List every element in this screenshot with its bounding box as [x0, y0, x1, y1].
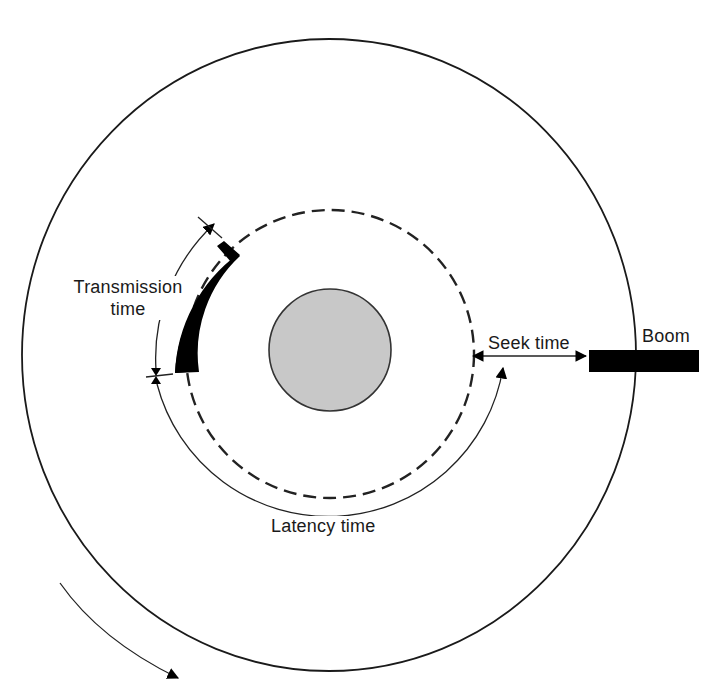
center-hub [269, 289, 391, 411]
black-boom-bar [589, 350, 699, 372]
junction-arrow-down [151, 376, 161, 384]
diagram-graphics [0, 0, 722, 697]
disk-diagram: Transmission time Seek time Boom Latency… [0, 0, 722, 697]
clockwise-rotation-arrow [60, 583, 178, 678]
boom-label: Boom [642, 326, 690, 346]
junction-arrow-up [151, 368, 161, 376]
transmission-time-label: Transmission time [70, 276, 186, 320]
transmission-label-line1: Transmission [70, 276, 186, 298]
transmission-bottom-tick [146, 374, 173, 377]
seek-time-label: Seek time [486, 333, 572, 353]
transmission-label-line2: time [70, 298, 186, 320]
latency-time-label: Latency time [268, 516, 378, 536]
transmission-top-tick [198, 217, 222, 238]
